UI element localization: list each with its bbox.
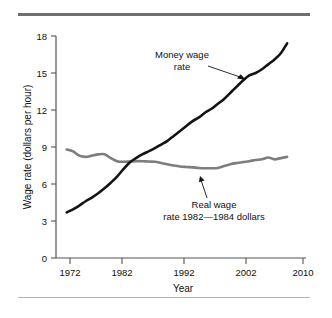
x-axis-ticks (70, 258, 303, 264)
y-tick-label: 15 (36, 68, 47, 79)
real-wage-annotation-line2: rate 1982—1984 dollars (163, 211, 265, 222)
y-axis-tick-labels: 18 15 12 9 6 3 0 (36, 31, 47, 264)
y-tick-label: 18 (36, 31, 47, 42)
money-wage-annotation-line1: Money wage (155, 49, 209, 60)
y-tick-label: 9 (42, 142, 47, 153)
money-wage-annotation-line2: rate (174, 61, 190, 72)
wage-rate-line-chart: 18 15 12 9 6 3 0 1972 1982 1992 2002 201… (0, 0, 332, 318)
x-tick-label: 2010 (292, 267, 313, 278)
real-wage-rate-line (67, 149, 287, 168)
bottom-divider-rule (18, 297, 310, 298)
x-tick-label: 1972 (59, 267, 80, 278)
x-axis-title: Year (173, 283, 194, 294)
x-tick-label: 2002 (235, 267, 256, 278)
y-tick-label: 6 (42, 179, 47, 190)
money-wage-arrowhead (237, 74, 246, 80)
money-wage-annotation-arrow (208, 66, 243, 78)
money-wage-annotation: Money wage rate (155, 49, 246, 80)
x-tick-label: 1992 (173, 267, 194, 278)
real-wage-annotation: Real wage rate 1982—1984 dollars (163, 176, 265, 222)
real-wage-annotation-line1: Real wage (192, 199, 237, 210)
x-axis-tick-labels: 1972 1982 1992 2002 2010 (59, 267, 313, 278)
chart-figure: 18 15 12 9 6 3 0 1972 1982 1992 2002 201… (0, 0, 332, 318)
real-wage-arrowhead (199, 176, 205, 182)
y-axis-title: Wage rate (dollars per hour) (22, 85, 33, 210)
y-tick-label: 12 (36, 105, 47, 116)
real-wage-annotation-arrow (201, 180, 207, 198)
y-tick-label: 3 (42, 216, 47, 227)
y-axis-ticks (51, 36, 56, 258)
x-tick-label: 1982 (111, 267, 132, 278)
y-tick-label: 0 (42, 253, 47, 264)
